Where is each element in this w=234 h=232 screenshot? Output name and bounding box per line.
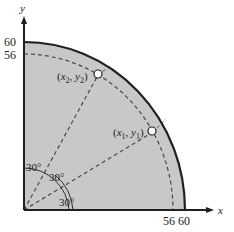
angle-label-top: 30°: [26, 161, 41, 173]
y-axis-arrow-icon: [21, 16, 27, 24]
point-x1-y1: [148, 127, 156, 135]
x-axis-arrow-icon: [206, 207, 214, 213]
y-axis-label: y: [19, 2, 25, 14]
x-axis-label: x: [217, 204, 223, 216]
x-tick-56: 56: [163, 214, 175, 228]
angle-label-bottom: 30°: [59, 196, 74, 208]
angle-label-middle: 30°: [49, 171, 64, 183]
x-tick-60: 60: [178, 214, 190, 228]
point-x2-y2: [94, 70, 102, 78]
quarter-circle-diagram: y x 60 56 56 60 (x2, y2) (x1, y1) 30° 30…: [0, 0, 234, 232]
shaded-region: [24, 42, 185, 210]
y-tick-56: 56: [4, 48, 16, 62]
y-tick-60: 60: [4, 35, 16, 49]
